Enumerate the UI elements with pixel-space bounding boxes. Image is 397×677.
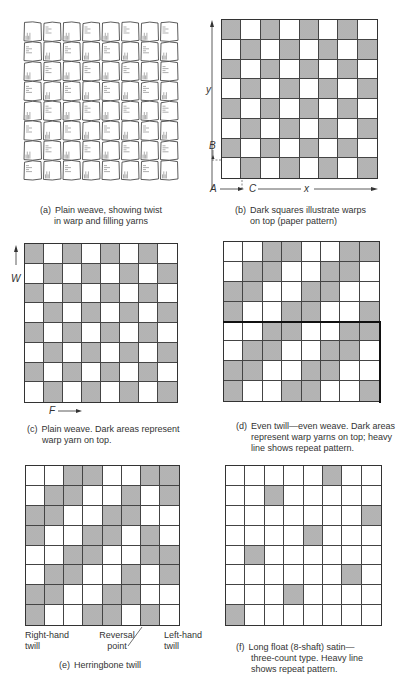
filling-over-cell: [284, 526, 303, 546]
filling-over-cell: [245, 506, 264, 526]
label-reversal-point: Reversal point: [94, 630, 140, 652]
filling-over-cell: [302, 341, 321, 361]
warp-over-cell: [282, 242, 301, 262]
warp-over-cell: [302, 361, 321, 381]
filling-over-cell: [284, 605, 303, 625]
filling-over-cell: [226, 585, 245, 605]
filling-over-cell: [362, 546, 381, 566]
filling-over-cell: [360, 262, 379, 282]
filling-over-cell: [263, 381, 282, 401]
figure-a: (a)Plain weave, showing twist in warp an…: [0, 0, 200, 225]
warp-over-cell: [342, 565, 361, 585]
filling-over-cell: [263, 302, 282, 322]
warp-over-cell: [340, 262, 359, 282]
filling-over-cell: [245, 466, 264, 486]
filling-over-cell: [226, 565, 245, 585]
filling-over-cell: [323, 506, 342, 526]
filling-over-cell: [304, 605, 323, 625]
filling-over-cell: [362, 565, 381, 585]
filling-over-cell: [243, 302, 262, 322]
filling-over-cell: [224, 242, 243, 262]
warp-over-cell: [263, 322, 282, 342]
warp-over-cell: [263, 242, 282, 262]
filling-over-cell: [323, 546, 342, 566]
filling-over-cell: [323, 605, 342, 625]
filling-over-cell: [340, 381, 359, 401]
filling-over-cell: [342, 486, 361, 506]
warp-over-cell: [265, 486, 284, 506]
filling-over-cell: [282, 341, 301, 361]
filling-over-cell: [224, 322, 243, 342]
filling-over-cell: [304, 506, 323, 526]
filling-over-cell: [342, 605, 361, 625]
label-W: W: [11, 273, 20, 284]
warp-over-cell: [321, 361, 340, 381]
filling-over-cell: [362, 605, 381, 625]
filling-over-cell: [342, 585, 361, 605]
filling-over-cell: [282, 361, 301, 381]
filling-over-cell: [245, 526, 264, 546]
filling-over-cell: [265, 585, 284, 605]
filling-over-cell: [323, 486, 342, 506]
filling-over-cell: [245, 605, 264, 625]
filling-over-cell: [304, 486, 323, 506]
filling-over-cell: [265, 506, 284, 526]
filling-over-cell: [340, 282, 359, 302]
filling-over-cell: [342, 506, 361, 526]
filling-over-cell: [265, 546, 284, 566]
warp-over-cell: [282, 302, 301, 322]
filling-over-cell: [342, 526, 361, 546]
warp-over-cell: [340, 341, 359, 361]
filling-over-cell: [304, 546, 323, 566]
filling-over-cell: [243, 322, 262, 342]
filling-over-cell: [265, 605, 284, 625]
filling-over-cell: [284, 546, 303, 566]
filling-over-cell: [360, 341, 379, 361]
warp-over-cell: [360, 242, 379, 262]
warp-over-cell: [243, 282, 262, 302]
filling-over-cell: [284, 486, 303, 506]
filling-over-cell: [226, 546, 245, 566]
filling-over-cell: [340, 302, 359, 322]
filling-over-cell: [284, 565, 303, 585]
filling-over-cell: [362, 466, 381, 486]
plain-weave-illustration: [0, 0, 200, 190]
filling-over-cell: [362, 526, 381, 546]
figure-f: (f)Long float (8-shaft) satin— three-cou…: [200, 450, 397, 677]
warp-over-cell: [245, 546, 264, 566]
caption-f: (f)Long float (8-shaft) satin— three-cou…: [236, 642, 396, 675]
warp-over-cell: [321, 341, 340, 361]
filling-over-cell: [360, 361, 379, 381]
warp-over-cell: [321, 282, 340, 302]
filling-over-cell: [362, 585, 381, 605]
filling-over-cell: [342, 466, 361, 486]
filling-over-cell: [263, 282, 282, 302]
warp-over-cell: [263, 341, 282, 361]
filling-over-cell: [226, 466, 245, 486]
filling-over-cell: [265, 565, 284, 585]
label-y: y: [206, 84, 211, 95]
filling-over-cell: [321, 242, 340, 262]
filling-over-cell: [321, 322, 340, 342]
warp-over-cell: [362, 506, 381, 526]
figure-b: y B A C x (b)Dark squares illustrate war…: [200, 0, 397, 225]
warp-over-cell: [340, 242, 359, 262]
warp-over-cell: [243, 341, 262, 361]
filling-over-cell: [263, 361, 282, 381]
filling-over-cell: [362, 486, 381, 506]
label-A: A: [210, 183, 217, 194]
filling-over-cell: [245, 565, 264, 585]
filling-over-cell: [304, 565, 323, 585]
warp-over-cell: [360, 322, 379, 342]
filling-over-cell: [245, 585, 264, 605]
filling-over-cell: [304, 585, 323, 605]
filling-over-cell: [302, 242, 321, 262]
filling-over-cell: [243, 242, 262, 262]
label-C: C: [249, 183, 256, 194]
filling-over-cell: [224, 341, 243, 361]
warp-over-cell: [302, 302, 321, 322]
warp-over-cell: [282, 381, 301, 401]
caption-e: (e)Herringbone twill: [59, 660, 199, 671]
warp-over-cell: [284, 585, 303, 605]
warp-over-cell: [243, 361, 262, 381]
